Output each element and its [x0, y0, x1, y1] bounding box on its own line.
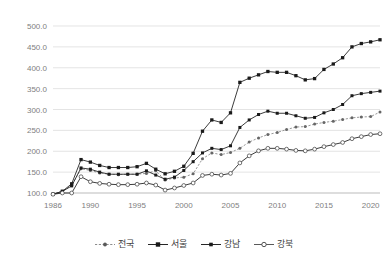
data-point-marker [210, 172, 214, 176]
y-axis-tick-label: 450.0 [27, 43, 48, 52]
x-axis-tick-label: 2010 [268, 201, 286, 210]
data-point-marker [276, 71, 279, 74]
data-point-marker [79, 175, 83, 179]
data-point-marker [332, 62, 335, 65]
y-axis-tick-label: 100.0 [27, 189, 48, 198]
data-point-marker [145, 181, 149, 185]
series-line [53, 112, 380, 194]
data-point-marker [247, 154, 251, 158]
data-point-marker [154, 183, 158, 187]
x-axis-tick-label: 1995 [128, 201, 146, 210]
data-point-marker [294, 74, 297, 77]
data-point-marker [154, 174, 157, 177]
data-point-marker [275, 146, 279, 150]
data-point-marker [98, 164, 101, 167]
data-point-marker [173, 176, 176, 179]
data-point-marker [369, 115, 372, 118]
data-point-marker [285, 147, 289, 151]
x-axis-tick-label: 2000 [175, 201, 193, 210]
data-point-marker [163, 172, 166, 175]
data-point-marker [108, 173, 111, 176]
data-point-marker [341, 56, 344, 59]
data-point-marker [304, 78, 307, 81]
data-point-marker [220, 148, 223, 151]
y-axis-tick-label: 250.0 [27, 126, 48, 135]
small-dot-dotted-marker [95, 240, 115, 249]
data-point-marker [229, 151, 232, 154]
data-point-marker [98, 171, 101, 174]
data-point-marker [182, 169, 185, 172]
chart-legend: 전국 서울 강남 강북 [0, 240, 387, 249]
data-point-marker [126, 166, 129, 169]
data-point-marker [210, 151, 213, 154]
legend-label: 강남 [224, 240, 240, 249]
y-axis-tick-label: 500.0 [27, 22, 48, 31]
data-point-marker [341, 118, 344, 121]
data-point-marker [210, 147, 213, 150]
data-point-marker [248, 77, 251, 80]
data-point-marker [88, 180, 92, 184]
data-point-marker [220, 153, 223, 156]
data-point-marker [229, 171, 233, 175]
data-point-marker [70, 191, 74, 195]
data-point-marker [304, 125, 307, 128]
data-point-marker [350, 94, 353, 97]
data-point-marker [182, 184, 186, 188]
data-point-marker [341, 141, 345, 145]
data-point-marker [248, 118, 251, 121]
data-point-marker [360, 92, 363, 95]
data-point-marker [89, 168, 92, 171]
data-point-marker [201, 157, 204, 160]
data-point-marker [220, 121, 223, 124]
y-axis-tick-label: 200.0 [27, 147, 48, 156]
data-point-marker [219, 173, 223, 177]
data-point-marker [164, 178, 167, 181]
data-point-marker [191, 152, 194, 155]
data-point-marker [191, 181, 195, 185]
data-point-marker [378, 132, 382, 136]
x-axis-tick-label: 2015 [315, 201, 333, 210]
data-point-marker [303, 149, 307, 153]
data-point-marker [322, 145, 326, 149]
data-point-marker [266, 146, 270, 150]
data-point-marker [248, 141, 251, 144]
data-point-marker [369, 40, 372, 43]
data-point-marker [145, 169, 148, 172]
data-point-marker [80, 166, 83, 169]
legend-item-gangnam[interactable]: 강남 [201, 240, 240, 249]
data-point-marker [201, 174, 205, 178]
data-point-marker [331, 143, 335, 147]
data-point-marker [154, 168, 157, 171]
data-point-marker [285, 128, 288, 131]
data-point-marker [313, 77, 316, 80]
data-point-marker [107, 182, 111, 186]
data-point-marker [117, 166, 120, 169]
data-point-marker [313, 147, 317, 151]
data-point-marker [369, 133, 373, 137]
x-axis-tick-label: 2005 [222, 201, 240, 210]
data-point-marker [173, 170, 176, 173]
legend-item-jeonguk[interactable]: 전국 [95, 240, 134, 249]
filled-square-marker [148, 240, 168, 249]
data-point-marker [294, 126, 297, 129]
data-point-marker [107, 166, 110, 169]
data-point-marker [341, 103, 344, 106]
data-point-marker [173, 186, 177, 190]
legend-item-gangbuk[interactable]: 강북 [254, 240, 293, 249]
data-point-marker [313, 116, 316, 119]
x-axis-tick-label: 1986 [44, 201, 62, 210]
legend-label: 전국 [118, 240, 134, 249]
data-point-marker [201, 130, 204, 133]
data-point-marker [304, 117, 307, 120]
data-point-marker [210, 118, 213, 121]
data-point-marker [238, 161, 242, 165]
data-point-marker [51, 192, 55, 196]
legend-item-seoul[interactable]: 서울 [148, 240, 187, 249]
legend-label: 서울 [171, 240, 187, 249]
data-point-marker [79, 158, 82, 161]
data-point-marker [135, 165, 138, 168]
data-point-marker [192, 160, 195, 163]
data-point-marker [313, 123, 316, 126]
data-point-marker [163, 188, 167, 192]
data-point-marker [359, 135, 363, 139]
